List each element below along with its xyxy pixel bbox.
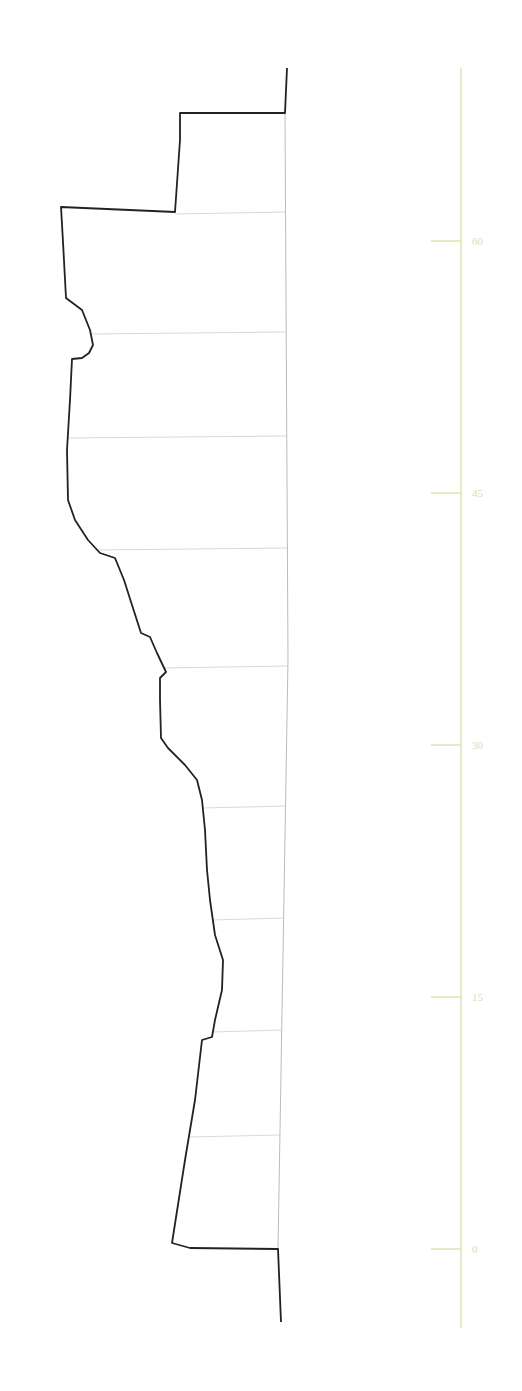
sample-line [175, 212, 286, 214]
baseline [278, 113, 288, 1249]
sample-line [189, 1135, 280, 1137]
scale-tick-label: 30 [472, 739, 484, 751]
scale-tick-label: 45 [472, 487, 484, 499]
sample-line [163, 666, 288, 668]
sample-line [213, 1030, 281, 1032]
sample-line [90, 332, 286, 334]
profile-outline [61, 68, 287, 1322]
sample-lines [68, 212, 288, 1137]
sample-line [95, 548, 287, 550]
sample-line [68, 436, 287, 438]
scale-tick-label: 15 [472, 991, 484, 1003]
sample-line [213, 918, 284, 920]
profile-diagram: 015304560 [0, 0, 522, 1391]
scale-tick-label: 60 [472, 235, 484, 247]
sample-line [203, 806, 286, 808]
depth-scale: 015304560 [431, 68, 484, 1328]
scale-tick-label: 0 [472, 1243, 478, 1255]
